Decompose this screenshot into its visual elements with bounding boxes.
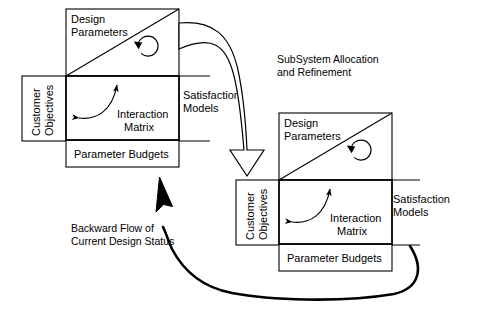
customer-objectives-label-1-line2: Objectives	[43, 84, 55, 136]
backward-flow-label-line2: Current Design Status	[71, 235, 174, 247]
diagram-canvas: Design Parameters Customer Objectives In…	[0, 0, 479, 310]
customer-objectives-label-1-line1: Customer	[30, 88, 42, 136]
design-parameters-label-1-line2: Parameters	[71, 26, 128, 38]
parameter-budgets-label-1: Parameter Budgets	[74, 148, 169, 160]
interaction-matrix-label-1-line2: Matrix	[124, 121, 154, 133]
subsystem-block: Design Parameters Customer Objectives In…	[236, 113, 450, 271]
satisfaction-models-label-1-line1: Satisfaction	[183, 89, 240, 101]
satisfaction-models-label-1-line2: Models	[183, 102, 219, 114]
customer-objectives-label-2-line1: Customer	[244, 192, 256, 240]
interaction-matrix-label-2-line1: Interaction	[330, 212, 381, 224]
forward-flow-label-line1: SubSystem Allocation	[277, 53, 379, 65]
design-parameters-label-1-line1: Design	[71, 13, 105, 25]
satisfaction-models-label-2-line1: Satisfaction	[393, 193, 450, 205]
customer-objectives-label-2-line2: Objectives	[257, 188, 269, 240]
backward-flow-arrowhead	[156, 177, 173, 212]
interaction-matrix-label-1-line1: Interaction	[117, 108, 168, 120]
systems-engineering-diagram: Design Parameters Customer Objectives In…	[0, 0, 479, 310]
satisfaction-models-label-2-line2: Models	[393, 206, 429, 218]
backward-flow-label-line1: Backward Flow of	[71, 222, 154, 234]
design-parameters-label-2-line2: Parameters	[284, 130, 341, 142]
interaction-matrix-label-2-line2: Matrix	[337, 225, 367, 237]
design-parameters-label-2-line1: Design	[284, 117, 318, 129]
parameter-budgets-label-2: Parameter Budgets	[287, 252, 382, 264]
forward-flow-label-line2: and Refinement	[277, 66, 351, 78]
